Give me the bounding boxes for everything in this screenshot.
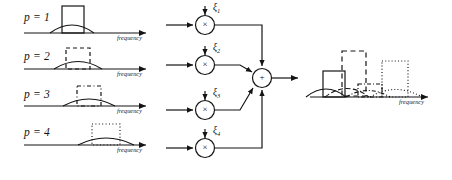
panel-label-p1: p = 1 [24, 12, 50, 24]
rect-p3 [77, 86, 101, 106]
rect-p4 [92, 124, 120, 145]
diagram-svg [0, 0, 452, 180]
rect-p1 [62, 6, 84, 33]
coefficient-subscript-1: 1 [217, 7, 220, 14]
output-rect-3 [358, 84, 382, 97]
axis-label-output: frequency [399, 99, 424, 105]
hump-p1 [50, 25, 94, 33]
axis-label-p3: frequency [117, 108, 142, 114]
axis-label-p4: frequency [117, 147, 142, 153]
coefficient-label-2: ξ2 [213, 43, 220, 54]
multiplier-glyph-4: × [199, 143, 211, 152]
coefficient-label-3: ξ3 [213, 88, 220, 99]
axis-label-p1: frequency [117, 35, 142, 41]
axis-label-p2: frequency [117, 71, 142, 77]
sum-wire-2 [215, 65, 252, 72]
multiplier-glyph-2: × [199, 60, 211, 69]
output-hump-4 [370, 90, 422, 98]
coefficient-subscript-2: 2 [217, 47, 220, 54]
multiplier-glyph-1: × [199, 20, 211, 29]
signal-paths [166, 6, 298, 158]
hump-p4 [78, 138, 134, 145]
coefficient-subscript-3: 3 [217, 92, 220, 99]
figure-canvas: p = 1 p = 2 p = 3 p = 4 frequency freque… [0, 0, 452, 180]
coefficient-label-4: ξ4 [213, 126, 220, 137]
panel-label-p2: p = 2 [24, 51, 50, 63]
sum-wire-1 [215, 25, 262, 66]
output-panel [306, 51, 428, 97]
coefficient-label-1: ξ1 [213, 3, 220, 14]
summing-junction-glyph: + [256, 73, 268, 82]
panel-label-p4: p = 4 [24, 127, 50, 139]
sum-wire-4 [215, 90, 262, 148]
multiplier-glyph-3: × [199, 105, 211, 114]
panel-label-p3: p = 3 [24, 89, 50, 101]
coefficient-subscript-4: 4 [217, 130, 220, 137]
hump-p3 [63, 99, 115, 106]
sum-wire-3 [215, 88, 253, 110]
rect-p2 [66, 48, 90, 69]
output-rect-4 [382, 61, 408, 97]
hump-p2 [54, 62, 102, 70]
